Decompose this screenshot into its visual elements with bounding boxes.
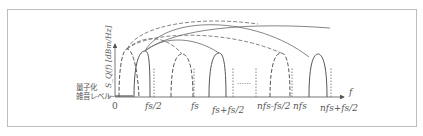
tick-fs: fs <box>190 101 199 111</box>
folding-arcs <box>127 21 330 57</box>
tick-nfs-plus-half: nfs+fs/2 <box>320 103 358 113</box>
noise-label-line1: 量子化 <box>76 82 98 92</box>
x-axis-label: f <box>348 87 354 97</box>
tick-nfs-minus-half: nfs-fs/2 <box>257 101 291 111</box>
spectrum-diagram: S_Q(f) [dBm/Hz] 量子化 雑音レベル f …… 0 fs/2 fs… <box>0 0 423 136</box>
ellipsis: …… <box>237 78 251 86</box>
tick-fs-plus-half: fs+fs/2 <box>211 105 244 115</box>
solid-lobes <box>134 51 327 97</box>
tick-nfs: nfs <box>293 101 307 111</box>
noise-label-line2: 雑音レベル <box>76 91 112 101</box>
tick-fs-half: fs/2 <box>144 101 162 111</box>
y-axis-label: S_Q(f) [dBm/Hz] <box>104 26 113 88</box>
tick-0: 0 <box>112 101 118 111</box>
dashed-lobes <box>119 49 290 97</box>
